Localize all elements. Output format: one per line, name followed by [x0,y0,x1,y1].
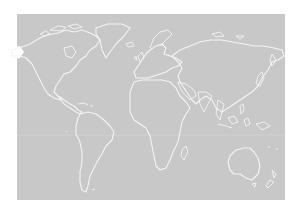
arctic-islands [40,24,82,36]
asia [172,40,284,112]
australia [228,148,260,180]
madagascar [181,146,188,160]
pacific-islands [66,131,278,150]
caribbean-islands [78,103,93,106]
hudson-bay [64,46,76,58]
japan [256,72,264,86]
siberian-islands [212,32,244,39]
north-america [12,30,100,100]
falkland-islands [92,189,95,190]
iceland [126,42,134,47]
south-america [76,112,114,192]
scandinavia [150,30,172,48]
tasmania [252,183,256,187]
british-isles [134,52,144,62]
philippines [240,104,244,114]
india [198,92,212,112]
indonesia [218,116,270,130]
world-map[interactable] [0,0,294,206]
greenland [96,24,130,58]
new-zealand [266,170,276,188]
southeast-asia [216,100,224,120]
central-america [58,96,82,114]
